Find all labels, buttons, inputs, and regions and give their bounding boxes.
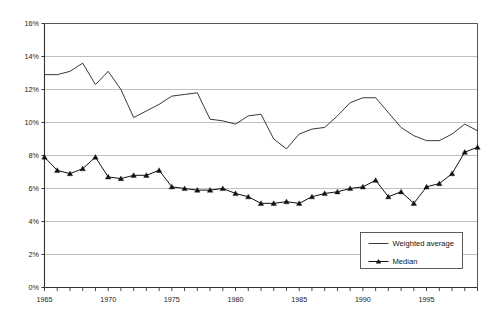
- data-point-marker: [156, 168, 161, 173]
- legend-label: Median: [393, 257, 418, 266]
- x-tick-label: 1975: [164, 295, 180, 304]
- series-median: [42, 145, 480, 206]
- data-point-marker: [398, 189, 403, 194]
- y-tick-label: 2%: [29, 250, 40, 259]
- gridlines: [45, 24, 478, 255]
- y-tick-label: 10%: [25, 118, 40, 127]
- x-tick-label: 1965: [37, 295, 53, 304]
- x-tick-label: 1990: [355, 295, 371, 304]
- data-point-marker: [475, 145, 480, 150]
- x-tick-label: 1980: [228, 295, 244, 304]
- x-tick-label: 1985: [291, 295, 307, 304]
- series-weighted-average: [45, 63, 478, 149]
- line-chart: 0%2%4%6%8%10%12%14%16%196519701975198019…: [0, 0, 499, 319]
- legend-label: Weighted average: [393, 239, 455, 248]
- legend: Weighted averageMedian: [361, 233, 463, 269]
- chart-container: 0%2%4%6%8%10%12%14%16%196519701975198019…: [0, 0, 499, 319]
- y-tick-label: 14%: [25, 52, 40, 61]
- data-point-marker: [373, 178, 378, 183]
- y-tick-label: 12%: [25, 85, 40, 94]
- y-tick-label: 16%: [25, 19, 40, 28]
- data-point-marker: [449, 171, 454, 176]
- y-tick-label: 8%: [29, 151, 40, 160]
- x-axis: 1965197019751980198519901995: [37, 288, 478, 304]
- series-line: [45, 63, 478, 149]
- y-axis: 0%2%4%6%8%10%12%14%16%: [25, 19, 45, 292]
- y-tick-label: 0%: [29, 283, 40, 292]
- y-tick-label: 4%: [29, 217, 40, 226]
- y-tick-label: 6%: [29, 184, 40, 193]
- x-tick-label: 1995: [419, 295, 435, 304]
- x-tick-label: 1970: [100, 295, 116, 304]
